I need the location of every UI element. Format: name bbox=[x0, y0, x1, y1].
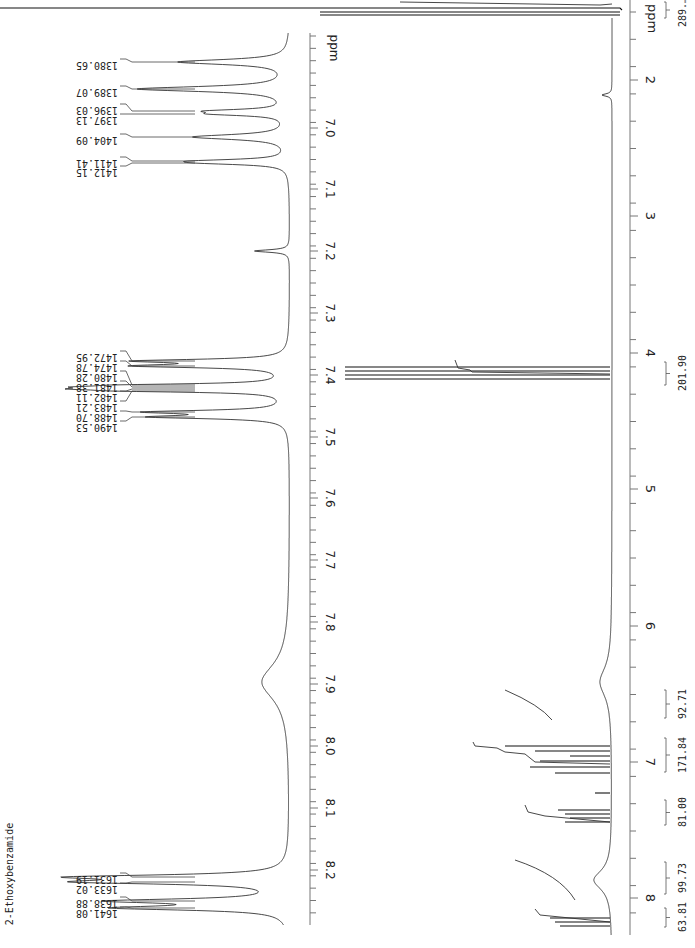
left-tick-label: 8.2 bbox=[323, 860, 337, 879]
full-spectrum-trace bbox=[594, 18, 612, 935]
left-tick-label: 7.8 bbox=[323, 612, 337, 631]
peak-label: 1412.15 bbox=[76, 167, 118, 178]
left-tick-label: 7.1 bbox=[323, 179, 337, 198]
left-tick-label: 7.0 bbox=[323, 118, 337, 137]
right-tick-label: 4 bbox=[643, 349, 658, 357]
right-tick-label: 7 bbox=[643, 758, 658, 766]
peak-label-group: 1380.651389.071396.031397.131404.091411.… bbox=[76, 59, 195, 919]
peak-label: 1380.65 bbox=[76, 60, 118, 71]
right-axis-unit: ppm bbox=[645, 4, 660, 33]
offscale-methyl-peaks bbox=[0, 2, 622, 15]
nmr-spectrum-chart: 2-Ethoxybenzamide 7.07.17.27.37.47.57.67… bbox=[0, 0, 695, 948]
full-ppm-axis: 2345678 ppm bbox=[630, 0, 660, 935]
left-tick-label: 7.9 bbox=[323, 674, 337, 693]
peak-label: 1389.07 bbox=[76, 87, 118, 98]
expansion-ppm-axis: 7.07.17.27.37.47.57.67.77.87.98.08.18.2 … bbox=[310, 33, 341, 925]
left-tick-label: 8.1 bbox=[323, 798, 337, 817]
integral-value: 63.81 bbox=[677, 902, 688, 932]
peak-label: 1396.03 bbox=[76, 105, 118, 116]
peak-label: 1481.38 bbox=[76, 382, 118, 393]
left-tick-label: 7.6 bbox=[323, 488, 337, 507]
peak-label: 1472.95 bbox=[76, 352, 118, 363]
integral-value: 289.… bbox=[677, 0, 688, 27]
peak-label: 1490.53 bbox=[76, 422, 118, 433]
peak-label: 1638.88 bbox=[76, 898, 118, 909]
integral-value: 99.73 bbox=[677, 863, 688, 893]
peak-label: 1397.13 bbox=[76, 115, 118, 126]
peak-label: 1404.09 bbox=[76, 135, 118, 146]
peak-label: 1480.28 bbox=[76, 372, 118, 383]
peak-label: 1474.78 bbox=[76, 362, 118, 373]
peak-label: 1631.19 bbox=[76, 874, 118, 885]
peak-label: 1488.70 bbox=[76, 412, 118, 423]
left-tick-label: 7.3 bbox=[323, 303, 337, 322]
left-tick-label: 8.0 bbox=[323, 736, 337, 755]
peak-label: 1641.08 bbox=[76, 908, 118, 919]
integral-value: 171.84 bbox=[677, 737, 688, 773]
peak-label: 1483.21 bbox=[76, 402, 118, 413]
full-spectrum-multiplets bbox=[345, 360, 610, 926]
integral-value: 92.71 bbox=[677, 689, 688, 719]
peak-label: 1482.11 bbox=[76, 392, 118, 403]
compound-title: 2-Ethoxybenzamide bbox=[4, 823, 15, 925]
right-tick-label: 2 bbox=[643, 76, 658, 84]
left-tick-label: 7.2 bbox=[323, 241, 337, 260]
integral-value: 81.00 bbox=[677, 797, 688, 827]
left-tick-label: 7.5 bbox=[323, 427, 337, 446]
right-tick-label: 6 bbox=[643, 622, 658, 630]
left-tick-label: 7.7 bbox=[323, 550, 337, 569]
peak-label: 1633.02 bbox=[76, 884, 118, 895]
integral-value: 201.90 bbox=[677, 355, 688, 391]
right-tick-label: 5 bbox=[643, 485, 658, 493]
right-tick-label: 8 bbox=[643, 894, 658, 902]
left-axis-unit: ppm bbox=[327, 35, 341, 62]
right-tick-label: 3 bbox=[643, 212, 658, 220]
integral-labels: 289.…201.9092.71171.8481.0099.7363.81 bbox=[664, 0, 688, 932]
left-tick-label: 7.4 bbox=[323, 365, 337, 384]
